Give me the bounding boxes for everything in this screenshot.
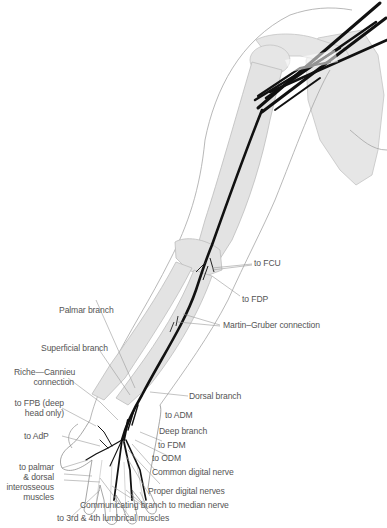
thumb-outline [69, 424, 78, 448]
label-to-fdm: to FDM [158, 440, 186, 450]
label-to-fcu: to FCU [254, 258, 281, 268]
label-palmar-branch: Palmar branch [59, 305, 114, 315]
label-deep-branch: Deep branch [159, 426, 207, 436]
label-common-digital-nerve: Common digital nerve [152, 467, 234, 477]
label-to-fdp: to FDP [242, 294, 268, 304]
label-communicating-branch: Communicating branch to median nerve [80, 500, 229, 510]
label-to-odm: to ODM [152, 453, 181, 463]
label-martin-gruber: Martin–Gruber connection [223, 320, 320, 330]
label-lumbricals: to 3rd & 4th lumbrical muscles [57, 513, 169, 523]
label-proper-digital-nerves: Proper digital nerves [148, 486, 225, 496]
label-dorsal-branch: Dorsal branch [189, 391, 241, 401]
label-to-adm: to ADM [165, 410, 193, 420]
hand-branches [86, 405, 146, 500]
ulnar-nerve-diagram: to FCU to FDP Martin–Gruber connection P… [0, 0, 387, 528]
label-riche-cannieu: Riche—Cannieu connection [14, 367, 74, 387]
label-superficial-branch: Superficial branch [41, 343, 108, 353]
label-to-adp: to AdP [24, 431, 49, 441]
label-to-fpb: to FPB (deep head only) [8, 398, 64, 418]
label-interosseous: to palmar & dorsal interosseous muscles [2, 462, 54, 502]
anatomy-illustration [0, 0, 387, 528]
